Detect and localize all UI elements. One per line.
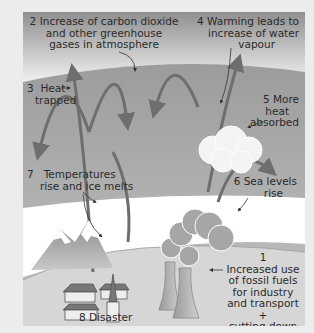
label-number: 2 — [30, 15, 37, 27]
label-line: absorbed — [243, 117, 299, 129]
label-fossil-fuels: 1 Increased use of fossil fuels for indu… — [221, 252, 305, 326]
label-number: 3 — [27, 82, 34, 94]
label-line: Disaster — [89, 311, 132, 323]
greenhouse-diagram: 2 Increase of carbon dioxide and other g… — [23, 12, 305, 326]
label-sea-levels: 6 Sea levels rise — [223, 176, 297, 199]
label-line: rise — [223, 188, 297, 200]
label-line: vapour — [183, 39, 299, 51]
label-line: gases in atmosphere — [29, 39, 179, 51]
label-disaster: 8 Disaster — [79, 312, 132, 324]
label-line: of fossil fuels — [221, 275, 305, 287]
label-water-vapour: 4 Warming leads to increase of water vap… — [183, 16, 299, 51]
label-number: 4 — [197, 15, 204, 27]
label-co2-increase: 2 Increase of carbon dioxide and other g… — [29, 16, 179, 51]
label-line: Heat — [40, 82, 65, 94]
label-number: 6 — [234, 175, 241, 187]
label-heat-trapped: 3 Heat trapped — [27, 83, 76, 106]
label-line: Increase of carbon dioxide — [40, 15, 179, 27]
label-number: 7 — [27, 168, 34, 180]
label-line: Temperatures — [44, 168, 116, 180]
label-line: More — [273, 93, 299, 105]
label-temperatures: 7 Temperatures rise and ice melts — [27, 169, 133, 192]
label-line: Warming leads to — [207, 15, 299, 27]
label-line: trapped — [27, 95, 76, 107]
label-line: rise and ice melts — [27, 181, 133, 193]
label-number: 1 — [221, 252, 305, 264]
label-number: 8 — [79, 311, 86, 323]
label-line: and transport — [221, 298, 305, 310]
label-line: Sea levels — [244, 175, 297, 187]
label-number: 5 — [263, 93, 270, 105]
label-more-heat: 5 More heat absorbed — [243, 94, 299, 129]
label-line: cutting down — [221, 321, 305, 326]
